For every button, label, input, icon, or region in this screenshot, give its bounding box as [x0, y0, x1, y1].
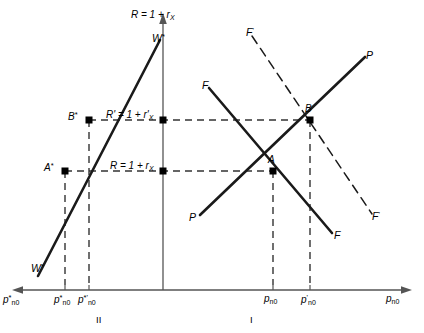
tick-label-p-prime-n0: p'n0 [301, 294, 316, 306]
diagram-canvas [0, 0, 424, 333]
curve-label-F-prime-lower: F' [372, 211, 380, 222]
curve-label-w-star-upper-sup: * [162, 32, 165, 41]
curve-label-F-prime-lower-sup: ' [378, 210, 379, 219]
dot-B [307, 117, 314, 124]
point-label-A: A [268, 155, 275, 165]
dot-axis-R [160, 168, 167, 175]
dot-A [270, 168, 277, 175]
level-label-R-prime: R' = 1 + r'X [106, 110, 153, 121]
left-axis-label-sub: n0 [11, 299, 19, 306]
curve-F-prime [252, 36, 372, 214]
curve-label-F-lower: F [334, 230, 340, 241]
level-label-R-prime-sub: X [149, 114, 154, 121]
point-label-B-text: B [305, 103, 312, 114]
curve-label-w-star-lower: W* [31, 263, 44, 274]
curve-label-w-star-upper: W* [152, 33, 165, 44]
curve-label-F-upper: F [202, 80, 208, 91]
point-label-A-text: A [268, 154, 275, 165]
curve-label-F-prime-upper-sup: ' [252, 26, 253, 35]
tick-label-p-star-prime-n0: p*'n0 [78, 294, 96, 306]
curve-label-w-star-upper-text: W [152, 32, 162, 44]
tick-label-p-star-n0-sub: n0 [62, 299, 70, 306]
curve-label-P-lower: P [189, 212, 196, 223]
vertical-axis [159, 13, 167, 290]
quadrant-label-II: II [96, 315, 101, 325]
curve-label-P-upper-text: P [366, 49, 373, 61]
point-label-A-star-sup: * [51, 161, 54, 170]
quadrant-label-I: I [250, 315, 253, 325]
horizontal-axis-right [163, 286, 412, 294]
axis-tick-marks [65, 285, 310, 290]
curve-label-F-prime-upper: F' [246, 27, 254, 38]
curve-label-w-star-lower-text: W [31, 262, 41, 274]
curve-label-P-lower-text: P [189, 211, 196, 223]
point-label-B: B [305, 104, 312, 114]
curve-label-P-upper: P [366, 50, 373, 61]
economics-diagram: R = 1 + rX R' = 1 + r'X R = 1 + rX W* W*… [0, 0, 424, 333]
point-label-B-star-text: B [68, 111, 75, 122]
dot-B-star [86, 117, 93, 124]
right-axis-label: pn0 [386, 294, 399, 305]
curve-label-F-lower-text: F [334, 229, 340, 241]
curve-label-F-upper-text: F [202, 79, 208, 91]
level-label-R-text: R = 1 + r [110, 160, 149, 171]
tick-label-p-n0: pn0 [264, 294, 277, 305]
level-label-R-prime-text: R' = 1 + r' [106, 109, 149, 120]
dot-A-star [62, 168, 69, 175]
point-label-B-star: B* [68, 111, 78, 122]
dot-axis-R-prime [160, 117, 167, 124]
left-axis-label: p*n0 [3, 294, 19, 306]
tick-label-p-prime-n0-sub: n0 [308, 299, 316, 306]
tick-label-p-n0-sub: n0 [270, 298, 278, 305]
vertical-axis-label-text: R = 1 + r [131, 9, 170, 20]
vertical-axis-label-sub: X [170, 14, 175, 21]
tick-label-p-star-prime-n0-sub: n0 [88, 299, 96, 306]
level-label-R-sub: X [149, 165, 154, 172]
tick-label-p-star-n0: p*n0 [54, 294, 70, 306]
curve-w-star [38, 40, 160, 276]
curve-label-w-star-lower-sup: * [41, 262, 44, 271]
level-label-R: R = 1 + rX [110, 161, 154, 172]
point-label-A-star: A* [44, 162, 54, 173]
vertical-axis-label: R = 1 + rX [131, 10, 175, 21]
point-label-A-star-text: A [44, 162, 51, 173]
point-label-B-star-sup: * [75, 110, 78, 119]
right-axis-label-sub: n0 [392, 298, 400, 305]
